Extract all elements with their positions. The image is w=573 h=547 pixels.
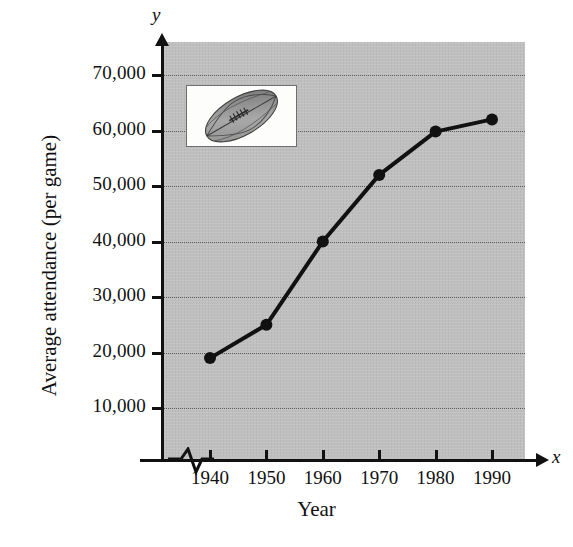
y-axis-tick <box>152 241 164 244</box>
x-axis-tick <box>209 450 212 462</box>
x-axis-letter: x <box>552 446 560 468</box>
gridline <box>163 186 525 187</box>
x-axis-tick <box>322 450 325 462</box>
gridline <box>163 242 525 243</box>
y-axis-arrow-icon <box>155 33 169 46</box>
y-axis-tick <box>152 130 164 133</box>
football-inset <box>186 85 297 147</box>
x-axis-tick-label: 1990 <box>452 467 532 489</box>
y-axis-tick <box>152 407 164 410</box>
gridline <box>163 75 525 76</box>
gridline <box>163 297 525 298</box>
x-axis-tick <box>435 450 438 462</box>
y-axis-tick <box>152 352 164 355</box>
y-axis-tick <box>152 185 164 188</box>
y-axis-tick <box>152 74 164 77</box>
y-axis-tick <box>152 296 164 299</box>
gridline <box>163 408 525 409</box>
x-axis-tick <box>491 450 494 462</box>
x-axis-title: Year <box>0 497 573 522</box>
x-axis-tick <box>378 450 381 462</box>
x-axis-arrow-icon <box>536 453 549 467</box>
x-axis-title-text: Year <box>297 497 336 521</box>
football-icon <box>187 86 296 146</box>
y-axis-letter: y <box>152 4 160 26</box>
x-axis-tick <box>265 450 268 462</box>
y-axis-title: Average attendance (per game) <box>37 56 62 476</box>
y-axis-line <box>161 45 164 461</box>
gridline <box>163 353 525 354</box>
attendance-line-chart: y x 10,00020,00030,00040,00050,00060,000… <box>0 0 573 547</box>
